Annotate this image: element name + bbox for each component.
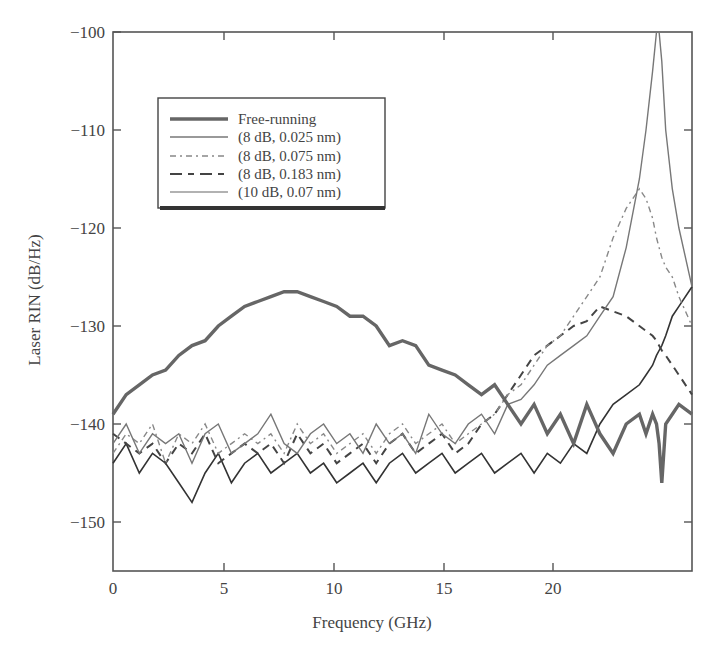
x-tick-label: 10: [326, 579, 343, 598]
y-tick-label: −130: [70, 317, 105, 336]
y-tick-label: −120: [70, 219, 105, 238]
x-tick-label: 0: [109, 579, 118, 598]
y-tick-label: −100: [70, 23, 105, 42]
legend-label: (10 dB, 0.07 nm): [238, 184, 341, 201]
x-axis-title: Frequency (GHz): [312, 613, 431, 632]
x-tick-label: 5: [220, 579, 229, 598]
legend-label: Free-running: [238, 111, 317, 127]
series-8db-0p025nm: [113, 32, 692, 463]
y-tick-label: −150: [70, 513, 105, 532]
legend-label: (8 dB, 0.183 nm): [238, 166, 341, 183]
y-tick-label: −140: [70, 415, 105, 434]
legend-label: (8 dB, 0.025 nm): [238, 129, 341, 146]
series-8db-0p075nm: [113, 189, 692, 463]
rin-chart: −100 −110 −120 −130 −140 −150 0 5 10 15 …: [0, 0, 720, 664]
y-axis-title: Laser RIN (dB/Hz): [25, 234, 44, 365]
x-tick-label: 20: [545, 579, 562, 598]
legend: Free-running (8 dB, 0.025 nm) (8 dB, 0.0…: [158, 98, 385, 208]
series-10db-0p07nm: [113, 287, 692, 503]
legend-label: (8 dB, 0.075 nm): [238, 148, 341, 165]
x-tick-label: 15: [436, 579, 453, 598]
y-tick-label: −110: [71, 121, 105, 140]
